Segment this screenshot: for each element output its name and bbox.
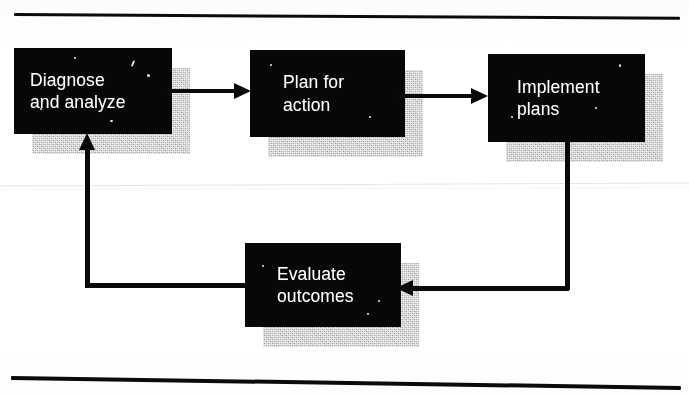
node-label-plan: Plan for action: [283, 71, 344, 116]
arrowhead-left-icon: [396, 280, 413, 296]
scan-artifact-line: [0, 182, 689, 186]
arrowhead-up-icon: [79, 133, 95, 150]
figure-canvas: Diagnose and analyze Plan for action Imp…: [0, 0, 689, 395]
arrow-shaft: [399, 94, 473, 98]
node-box-face: Evaluate outcomes: [245, 243, 401, 327]
arrowhead-right-icon: [471, 88, 488, 104]
arrow-shaft-horizontal: [410, 286, 569, 291]
top-divider-rule: [14, 13, 680, 20]
arrow-shaft-horizontal: [85, 283, 247, 288]
arrowhead-right-icon: [234, 83, 251, 99]
process-node-evaluate[interactable]: Evaluate outcomes: [245, 243, 401, 327]
process-node-plan[interactable]: Plan for action: [250, 50, 405, 137]
node-label-diagnose: Diagnose and analyze: [30, 69, 125, 114]
node-box-face: Implement plans: [488, 54, 645, 142]
process-node-diagnose[interactable]: Diagnose and analyze: [14, 48, 172, 134]
node-label-implement: Implement plans: [517, 76, 600, 121]
process-node-implement[interactable]: Implement plans: [488, 54, 645, 142]
node-label-evaluate: Evaluate outcomes: [277, 263, 354, 308]
node-box-face: Diagnose and analyze: [14, 48, 172, 134]
bottom-divider-rule: [11, 376, 681, 389]
arrow-shaft: [166, 89, 236, 93]
node-box-face: Plan for action: [250, 50, 405, 137]
scan-artifact-line: [0, 187, 689, 190]
arrow-shaft-vertical: [85, 150, 90, 286]
arrow-shaft-vertical: [565, 140, 570, 290]
